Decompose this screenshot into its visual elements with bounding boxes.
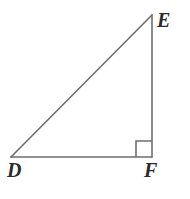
geometry-figure: E D F bbox=[0, 0, 190, 199]
vertex-label-F: F bbox=[144, 160, 157, 180]
vertex-label-E: E bbox=[157, 10, 170, 30]
vertex-label-D: D bbox=[7, 160, 21, 180]
